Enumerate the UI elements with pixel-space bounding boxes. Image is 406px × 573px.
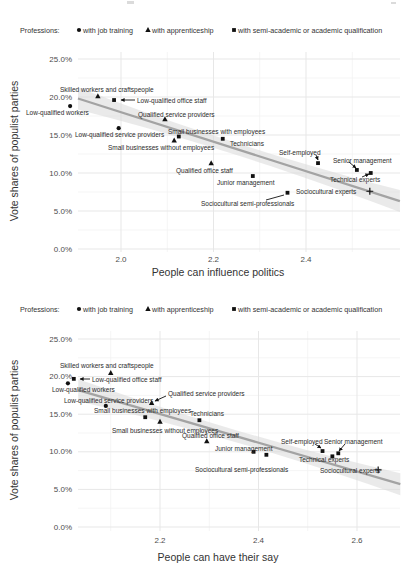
y-tick-label: 5.0% (28, 207, 72, 216)
circle-legend-glyph (77, 28, 81, 32)
y-tick-label: 15.0% (28, 131, 72, 140)
x-axis-title-bottom: People can have their say (118, 551, 318, 563)
triangle-legend-glyph (145, 27, 150, 32)
data-point-marker (72, 377, 76, 381)
point-label: Technical experts (330, 176, 380, 183)
point-label: Sociocultural experts (320, 467, 380, 474)
y-tick-label: 20.0% (28, 372, 72, 381)
point-label: Low-qualified office staff (137, 97, 207, 104)
y-tick-label: 25.0% (28, 55, 72, 64)
y-tick-label: 5.0% (28, 485, 72, 494)
legend-item-label: with apprenticeship (152, 26, 214, 35)
point-label: Technicians (190, 410, 224, 417)
y-axis-title-bottom: Vote shares of populist parties (8, 350, 20, 510)
data-point-marker (221, 137, 225, 141)
label-leader-line (339, 444, 345, 451)
point-label: Low-qualified service providers (64, 397, 153, 404)
point-label: Self-employed (279, 149, 321, 156)
data-point-marker (198, 418, 202, 422)
point-label: Skilled workers and craftspeople (60, 362, 154, 369)
point-label: Low-qualified office staff (92, 376, 162, 383)
legend-title: Professions: (20, 26, 60, 35)
point-label: Qualified office staff (182, 432, 239, 439)
data-point-marker (112, 98, 116, 102)
point-label: Skilled workers and craftspeople (60, 86, 154, 93)
data-point-marker (264, 453, 268, 457)
point-label: Sociocultural semi-professionals (201, 200, 294, 207)
x-tick-label: 2.6 (342, 536, 372, 545)
legend-title: Professions: (20, 305, 60, 314)
point-label: Small businesses without employees (108, 144, 214, 151)
legend-item-label: with job training (83, 26, 133, 35)
x-tick-label: 2.2 (145, 536, 175, 545)
point-label: Sociocultural experts (296, 188, 356, 195)
y-axis-title-top: Vote shares of populist parties (8, 71, 20, 231)
x-tick-label: 2.4 (244, 536, 274, 545)
triangle-legend-glyph (145, 306, 150, 311)
point-label: Technical experts (299, 456, 349, 463)
data-point-marker (143, 415, 147, 419)
data-point-marker (369, 171, 373, 175)
point-label: Senior management (333, 157, 392, 164)
point-label: Sociocultural semi-professionals (195, 466, 288, 473)
data-point-marker (355, 168, 359, 172)
x-axis-title-top: People can influence politics (118, 266, 318, 278)
data-point-marker (204, 438, 209, 443)
square-legend-glyph (232, 28, 236, 32)
point-label: Junior management (215, 445, 272, 452)
data-point-marker (177, 135, 181, 139)
point-label: Senior management (324, 438, 383, 445)
point-label: Self-employed (281, 438, 323, 445)
point-label: Low-qualified workers (26, 109, 89, 116)
point-label: Qualified service providers (138, 111, 215, 118)
circle-legend-glyph (77, 307, 81, 311)
y-tick-label: 0.0% (28, 245, 72, 254)
data-point-marker (286, 191, 290, 195)
y-tick-label: 10.0% (28, 169, 72, 178)
legend-item-label: with job training (83, 305, 133, 314)
legend-item-label: with apprenticeship (152, 305, 214, 314)
data-point-marker (108, 370, 113, 375)
data-point-marker (316, 161, 320, 165)
point-label: Small businesses with employees (94, 407, 191, 414)
point-label: Qualified office staff (176, 167, 233, 174)
y-tick-label: 0.0% (28, 523, 72, 532)
y-tick-label: 15.0% (28, 410, 72, 419)
y-tick-label: 20.0% (28, 93, 72, 102)
data-point-marker (171, 137, 176, 142)
x-tick-label: 2.0 (106, 255, 136, 264)
square-legend-glyph (232, 307, 236, 311)
point-label: Qualified service providers (168, 390, 245, 397)
point-label: Technicians (230, 140, 264, 147)
point-label: Low-qualified workers (52, 386, 115, 393)
x-tick-label: 2.4 (291, 255, 321, 264)
point-label: Low-qualified service providers (75, 131, 164, 138)
y-tick-label: 25.0% (28, 335, 72, 344)
data-point-marker (251, 174, 255, 178)
point-label: Junior management (217, 179, 274, 186)
legend-item-label: with semi-academic or academic qualifica… (238, 305, 382, 314)
data-point-marker (321, 449, 325, 453)
x-tick-label: 2.2 (199, 255, 229, 264)
populism-scatter-figure: Professions: Professions: with job train… (0, 0, 406, 573)
chart-top-canvas (68, 52, 400, 252)
legend-item-label: with semi-academic or academic qualifica… (238, 26, 382, 35)
point-label: Small businesses with employees (168, 128, 265, 135)
y-tick-label: 10.0% (28, 447, 72, 456)
